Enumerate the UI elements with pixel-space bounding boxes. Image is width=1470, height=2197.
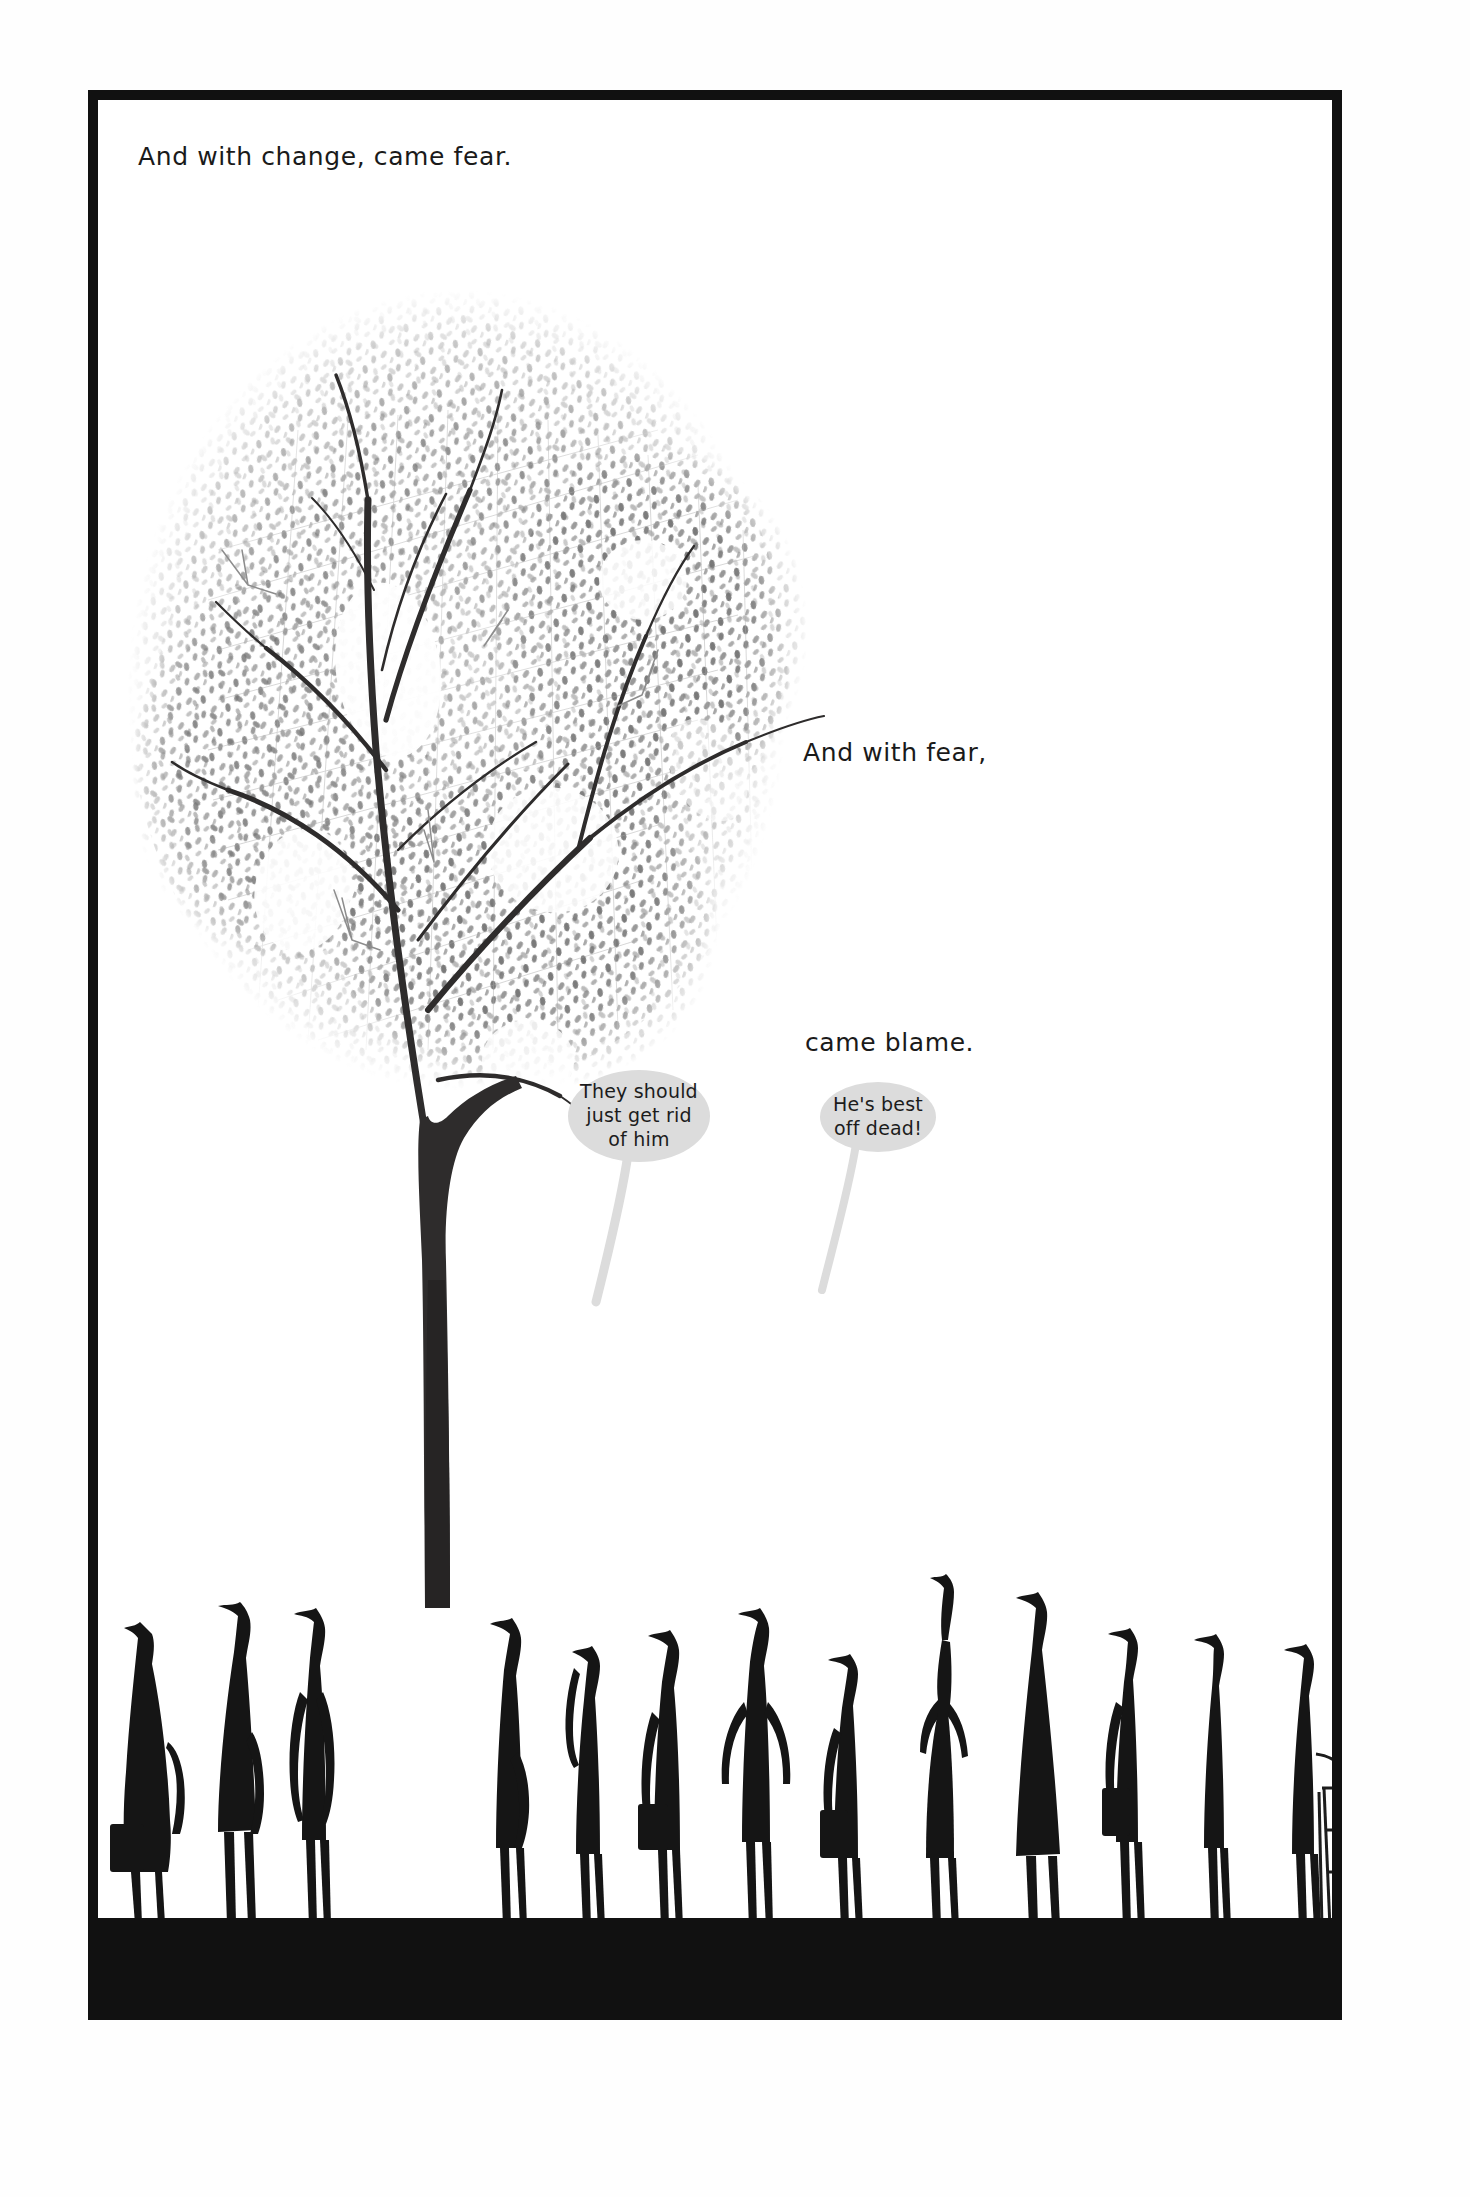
tree-illustration: [98, 250, 858, 1610]
figure-8-briefcase: [820, 1654, 863, 1928]
crowd-silhouettes: [98, 1572, 1332, 1932]
figure-11-briefcase: [1102, 1628, 1145, 1928]
speech-bubble-they-should-text: They shouldjust get ridof him: [574, 1080, 704, 1152]
figure-13-ladder: [1284, 1644, 1321, 1928]
comic-page: And with change, came fear. And with fea…: [0, 0, 1470, 2197]
ground-strip: [98, 1918, 1332, 2010]
tree-trunk: [418, 1076, 522, 1608]
figure-2-hat: [218, 1602, 264, 1924]
figure-12-thin: [1194, 1634, 1231, 1928]
comic-panel: And with change, came fear. And with fea…: [88, 90, 1342, 2020]
figure-3-looking-up: [289, 1608, 334, 1926]
figure-5-long-hair: [565, 1646, 605, 1928]
speech-bubble-hes-best-off-dead: He's bestoff dead!: [820, 1082, 936, 1152]
figure-4-tall: [490, 1618, 529, 1926]
speech-bubble-hes-best-off-dead-text: He's bestoff dead!: [827, 1093, 929, 1141]
figure-7-hands-on-hips: [722, 1608, 791, 1928]
figure-10-tall-cloak: [1016, 1592, 1060, 1926]
figure-6-briefcase: [638, 1630, 683, 1928]
caption-change-fear: And with change, came fear.: [138, 142, 512, 171]
figure-1-briefcase: [110, 1622, 185, 1924]
speech-bubble-they-should: They shouldjust get ridof him: [568, 1070, 710, 1162]
figure-9-raised-arm: [920, 1574, 968, 1928]
